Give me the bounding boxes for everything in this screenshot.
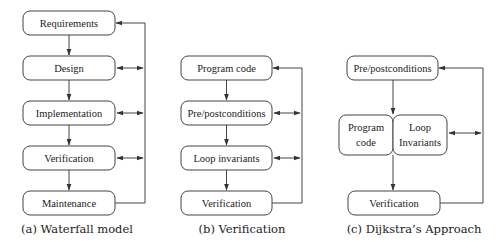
box-requirements: Requirements: [23, 11, 115, 35]
box-pre-postconditions: Pre/postconditions: [347, 56, 438, 80]
diagram-canvas: Requirements Design Implementation Verif…: [0, 0, 500, 249]
box-label: Loop invariants: [193, 153, 259, 164]
box-label: Verification: [369, 198, 419, 209]
box-program-code: Program code: [181, 56, 272, 80]
box-design: Design: [23, 56, 115, 80]
box-label: Implementation: [36, 108, 103, 119]
box-verification: Verification: [348, 191, 440, 215]
box-loop-invariants: Loop invariants: [181, 146, 272, 170]
box-program-code: Program code: [339, 115, 393, 155]
box-label-line1: Loop: [409, 122, 431, 133]
box-label: Verification: [202, 198, 252, 209]
box-pre-postconditions: Pre/postconditions: [181, 101, 272, 125]
box-label: Requirements: [40, 18, 98, 29]
box-maintenance: Maintenance: [23, 191, 115, 215]
box-label-line2: Invariants: [399, 137, 441, 148]
box-label: Maintenance: [42, 198, 97, 209]
box-loop-invariants: Loop Invariants: [393, 115, 447, 155]
box-implementation: Implementation: [23, 101, 115, 125]
panel-waterfall: Requirements Design Implementation Verif…: [21, 11, 145, 236]
feedback-loop-arrow-icon: [272, 68, 302, 203]
box-label-line1: Program: [348, 122, 384, 133]
box-label: Pre/postconditions: [187, 108, 265, 119]
box-label-line2: code: [356, 137, 376, 148]
panel-dijkstra: Pre/postconditions Program code Loop Inv…: [339, 56, 483, 236]
caption-verification: (b) Verification: [199, 222, 286, 236]
caption-dijkstra: (c) Dijkstra’s Approach: [347, 222, 482, 236]
box-label: Verification: [44, 153, 94, 164]
panel-verification: Program code Pre/postconditions Loop inv…: [181, 56, 302, 236]
box-verification: Verification: [23, 146, 115, 170]
caption-waterfall: (a) Waterfall model: [21, 222, 133, 236]
box-label: Program code: [197, 63, 256, 74]
box-label: Pre/postconditions: [353, 63, 431, 74]
box-verification: Verification: [181, 191, 272, 215]
box-label: Design: [54, 63, 84, 74]
